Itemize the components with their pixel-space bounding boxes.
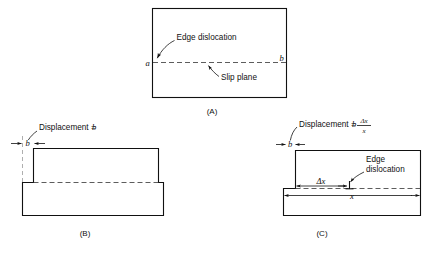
panel-c-slipped-block (284, 151, 421, 216)
panel-c-edge-dislocation-leader (351, 172, 364, 182)
panel-a-caption: (A) (207, 107, 218, 116)
panel-b: b Displacement = b (B) (11, 122, 164, 238)
panel-c-fraction-numerator: Δx (359, 117, 368, 125)
panel-c-x-label: x (349, 191, 354, 201)
panel-b-displacement-label: Displacement = (39, 123, 96, 132)
panel-a: Edge dislocation Slip plane a b (A) (146, 9, 287, 117)
panel-c: b Displacement = b Δx x Δx x (276, 117, 421, 238)
panel-b-offset-symbol: b (26, 138, 31, 148)
panel-a-point-a-label: a (146, 58, 150, 68)
panel-a-edge-dislocation-label: Edge dislocation (177, 33, 238, 42)
panel-a-slip-plane-leader (209, 66, 220, 77)
panel-c-fraction-denominator: x (361, 127, 366, 135)
panel-b-displacement-symbol: b (92, 122, 97, 132)
panel-c-dislocation-symbol (346, 181, 354, 189)
panel-c-delta-x-label: Δx (316, 176, 326, 186)
panel-b-displacement-leader (28, 131, 37, 140)
panel-b-caption: (B) (80, 229, 91, 238)
panel-c-edge-dislocation-label-line1: Edge (366, 155, 386, 164)
panel-c-caption: (C) (316, 229, 327, 238)
panel-b-slipped-block (23, 149, 164, 216)
panel-a-slip-plane-label: Slip plane (221, 73, 257, 82)
panel-c-edge-dislocation-label-line2: dislocation (366, 165, 405, 174)
panel-a-point-b-label: b (280, 53, 285, 63)
panel-a-crystal-block (153, 9, 287, 98)
edge-dislocation-figure: Edge dislocation Slip plane a b (A) b Di… (0, 0, 438, 253)
panel-a-edge-dislocation-leader (157, 41, 174, 59)
panel-c-displacement-label: Displacement = (299, 120, 356, 129)
panel-c-displacement-symbol: b (352, 119, 357, 129)
